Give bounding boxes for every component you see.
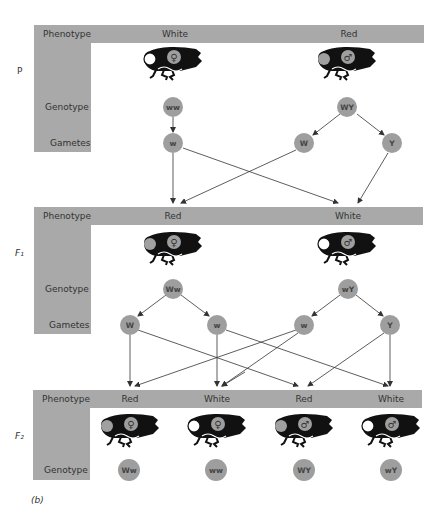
p-phenotype-female: White	[162, 29, 188, 39]
f1-phenotype-label: Phenotype	[43, 211, 91, 221]
fly-male-red-eye-icon: ♂	[271, 412, 335, 452]
f2-genotype-3: WY	[293, 459, 315, 481]
p-genotype-label: Genotype	[45, 102, 89, 112]
f2-genotype-4: wY	[380, 459, 402, 481]
f1-gamete-Y: Y	[380, 315, 400, 335]
fly-female-white-eye-icon: ♀	[140, 45, 204, 85]
generation-label-f2: F₂	[15, 431, 24, 441]
fly-female-white-eye-icon: ♀	[184, 412, 248, 452]
p-phenotype-male: Red	[340, 29, 357, 39]
f1-gamete-w-female: w	[207, 315, 227, 335]
f1-gametes-label: Gametes	[49, 320, 90, 330]
f2-genotype-1: Ww	[118, 459, 140, 481]
fly-male-white-eye-icon: ♂	[314, 230, 378, 270]
generation-label-f1: F₁	[15, 248, 24, 258]
f1-gamete-w-male: w	[294, 315, 314, 335]
f1-genotype-male: wY	[338, 279, 358, 299]
p-gamete-Y: Y	[382, 133, 402, 153]
f1-genotype-label: Genotype	[45, 284, 89, 294]
f2-phenotype-1: Red	[121, 394, 138, 404]
svg-text:♀: ♀	[214, 419, 221, 430]
f2-phenotype-label: Phenotype	[42, 394, 90, 404]
f2-phenotype-2: White	[204, 394, 230, 404]
p-gamete-w: w	[163, 133, 183, 153]
fly-male-white-eye-icon: ♂	[358, 412, 422, 452]
fly-female-red-eye-icon: ♀	[97, 412, 161, 452]
figure-label: (b)	[31, 495, 44, 505]
f1-genotype-female: Ww	[163, 279, 183, 299]
fly-male-red-eye-icon: ♂	[314, 45, 378, 85]
p-gametes-label: Gametes	[50, 138, 91, 148]
f1-phenotype-female: Red	[164, 211, 181, 221]
svg-text:♀: ♀	[170, 237, 177, 248]
generation-label-p: P	[17, 66, 22, 76]
f2-genotype-label: Genotype	[44, 465, 88, 475]
f2-phenotype-4: White	[378, 394, 404, 404]
p-gamete-W: W	[294, 133, 314, 153]
svg-text:♂: ♂	[344, 237, 353, 248]
svg-text:♂: ♂	[388, 419, 397, 430]
f1-phenotype-male: White	[335, 211, 361, 221]
svg-text:♀: ♀	[127, 419, 134, 430]
fly-female-red-eye-icon: ♀	[140, 230, 204, 270]
f2-genotype-2: ww	[205, 459, 227, 481]
p-genotype-male: WY	[337, 97, 357, 117]
p-genotype-female: ww	[163, 97, 183, 117]
f1-gamete-W: W	[120, 315, 140, 335]
svg-text:♂: ♂	[344, 52, 353, 63]
svg-text:♀: ♀	[170, 52, 177, 63]
svg-text:♂: ♂	[301, 419, 310, 430]
p-phenotype-label: Phenotype	[43, 29, 91, 39]
f2-phenotype-3: Red	[295, 394, 312, 404]
